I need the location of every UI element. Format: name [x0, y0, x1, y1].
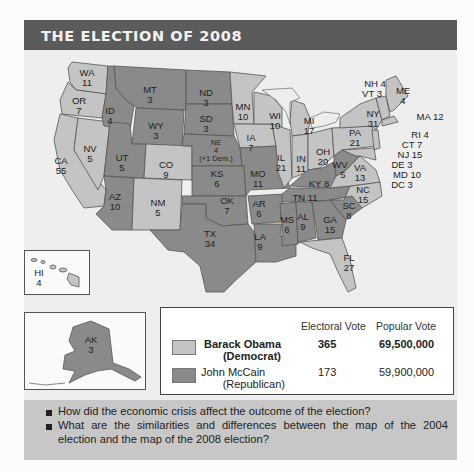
- svg-text:NC15: NC15: [356, 184, 370, 205]
- svg-text:WI10: WI10: [269, 110, 281, 131]
- hawaii-map: HI4: [25, 251, 89, 294]
- alaska-map: AK3: [25, 313, 145, 389]
- mccain-electoral: 173: [318, 366, 336, 378]
- democrat-swatch: [172, 340, 196, 355]
- legend-table: Electoral Vote Popular Vote Barack Obama…: [160, 307, 454, 395]
- svg-text:IN11: IN11: [296, 153, 306, 174]
- svg-text:AZ10: AZ10: [109, 191, 121, 212]
- svg-text:CA55: CA55: [54, 155, 68, 176]
- svg-text:KY 8: KY 8: [309, 178, 329, 189]
- svg-text:NY31: NY31: [366, 108, 380, 129]
- title-bar: THE ELECTION OF 2008: [24, 20, 457, 50]
- svg-text:MI17: MI17: [304, 115, 315, 136]
- candidate-mccain: John McCain (Republican): [201, 366, 285, 390]
- state-nj[interactable]: [372, 130, 380, 150]
- header-electoral-vote: Electoral Vote: [301, 320, 366, 332]
- svg-text:HI4: HI4: [34, 267, 44, 288]
- obama-electoral: 365: [318, 338, 336, 350]
- svg-text:VT 3: VT 3: [362, 88, 382, 99]
- svg-text:TN 11: TN 11: [292, 192, 317, 203]
- obama-popular: 69,500,000: [379, 338, 434, 350]
- svg-text:FL27: FL27: [343, 252, 354, 273]
- svg-text:PA21: PA21: [349, 127, 362, 148]
- discussion-questions: How did the economic crisis affect the o…: [24, 400, 457, 460]
- svg-text:MN10: MN10: [236, 101, 251, 122]
- mccain-popular: 59,900,000: [379, 366, 434, 378]
- svg-text:TX34: TX34: [204, 228, 217, 249]
- candidate-obama: Barack Obama (Democrat): [201, 338, 281, 362]
- page-title: THE ELECTION OF 2008: [41, 28, 242, 44]
- header-popular-vote: Popular Vote: [376, 320, 436, 332]
- hawaii-inset: HI4: [24, 250, 90, 295]
- svg-text:DC 3: DC 3: [391, 179, 413, 190]
- svg-text:OH20: OH20: [316, 146, 330, 167]
- question-2: What are the similarities and difference…: [58, 419, 448, 446]
- bullet-icon: [46, 424, 52, 430]
- great-lakes-east: [310, 112, 340, 128]
- question-1: How did the economic crisis affect the o…: [58, 405, 371, 419]
- svg-text:MA 12: MA 12: [417, 111, 444, 122]
- svg-text:IL21: IL21: [276, 152, 287, 173]
- republican-swatch: [172, 368, 196, 383]
- alaska-inset: AK3: [24, 312, 146, 390]
- bullet-icon: [46, 410, 52, 416]
- svg-text:VA13: VA13: [354, 162, 367, 183]
